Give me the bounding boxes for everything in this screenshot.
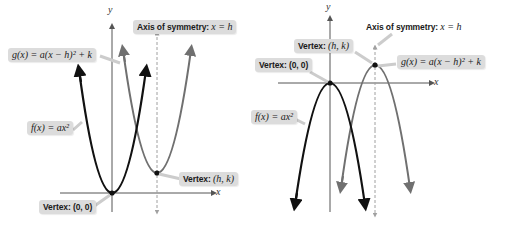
left-axis-of-symmetry-label: Axis of symmetry: x = h: [133, 20, 236, 34]
leader: [73, 122, 82, 130]
left-vertex-hk-label: Vertex: (h, k): [179, 172, 238, 186]
vertex-value: (0, 0): [289, 60, 308, 70]
vertex-value: (h, k): [328, 40, 349, 51]
left-f-function-label: f(x) = ax²: [27, 121, 73, 135]
leader: [355, 52, 372, 63]
left-vertex-origin-dot: [109, 190, 114, 195]
right-vertex-hk-label: Vertex: (h, k): [294, 39, 353, 53]
left-y-axis-label: y: [108, 4, 112, 15]
axis-of-symmetry-prefix: Axis of symmetry:: [366, 22, 438, 32]
leader: [378, 64, 396, 66]
axis-of-symmetry-prefix: Axis of symmetry:: [137, 22, 209, 32]
vertex-prefix: Vertex:: [183, 174, 211, 184]
left-g-function-label: g(x) = a(x − h)² + k: [8, 48, 96, 62]
axis-of-symmetry-equation: x = h: [440, 21, 461, 32]
leader: [378, 34, 392, 45]
vertex-value: (0, 0): [73, 202, 92, 212]
right-x-axis-label: x: [434, 76, 438, 87]
right-axis-of-symmetry-label: Axis of symmetry: x = h: [362, 20, 465, 34]
left-g-parabola-left-arrow: [123, 50, 125, 62]
right-vertex-origin-label: Vertex: (0, 0): [255, 58, 312, 72]
right-vertex-hk-dot: [372, 62, 377, 67]
right-f-parabola-left-arrow: [295, 193, 297, 205]
vertex-prefix: Vertex:: [259, 60, 287, 70]
leader: [310, 72, 328, 82]
axis-of-symmetry-equation: x = h: [211, 21, 232, 32]
leader: [159, 174, 181, 179]
left-vertex-origin-label: Vertex: (0, 0): [39, 200, 96, 214]
right-g-function-label: g(x) = a(x − h)² + k: [397, 55, 485, 69]
right-g-parabola-left-arrow: [341, 176, 343, 188]
vertex-prefix: Vertex:: [43, 202, 71, 212]
vertex-prefix: Vertex:: [298, 41, 326, 51]
vertex-value: (h, k): [213, 173, 234, 184]
leader: [100, 56, 120, 63]
left-x-axis-label: x: [216, 186, 220, 197]
right-f-function-label: f(x) = ax²: [251, 110, 297, 124]
right-y-axis-label: y: [326, 1, 330, 12]
